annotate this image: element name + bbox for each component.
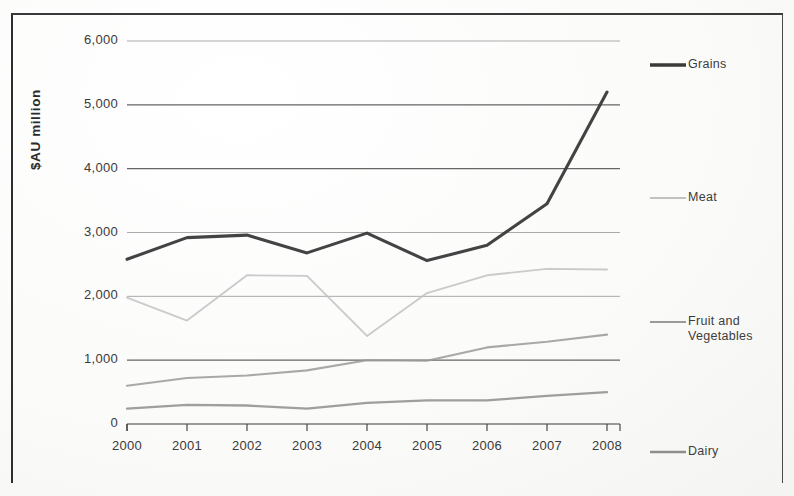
y-axis-title: $AU million [28, 40, 43, 170]
legend-label-fruit-and-vegetables: Fruit and Vegetables [688, 314, 753, 344]
x-axis-tick-label: 2005 [399, 438, 455, 453]
line-chart [0, 0, 794, 496]
x-axis-tick-label: 2001 [159, 438, 215, 453]
x-axis-tick-label: 2002 [219, 438, 275, 453]
y-axis-tick-label: 5,000 [52, 96, 118, 111]
legend-label-meat: Meat [688, 190, 717, 205]
x-axis-tick-label: 2004 [339, 438, 395, 453]
x-axis-tick-label: 2006 [459, 438, 515, 453]
y-axis-tick-label: 1,000 [52, 351, 118, 366]
axis-lines [127, 424, 620, 431]
y-axis-tick-label: 3,000 [52, 224, 118, 239]
x-axis-tick-label: 2000 [99, 438, 155, 453]
y-axis-tick-label: 6,000 [52, 32, 118, 47]
y-axis-tick-label: 2,000 [52, 287, 118, 302]
legend-label-grains: Grains [688, 57, 727, 72]
gridlines [127, 41, 620, 360]
y-axis-tick-label: 4,000 [52, 160, 118, 175]
legend-label-dairy: Dairy [688, 444, 719, 459]
x-axis-tick-label: 2003 [279, 438, 335, 453]
data-series-group [127, 92, 607, 409]
legend-swatch-group [650, 65, 686, 452]
y-axis-tick-label: 0 [52, 415, 118, 430]
x-axis-tick-label: 2007 [519, 438, 575, 453]
x-axis-tick-label: 2008 [579, 438, 635, 453]
